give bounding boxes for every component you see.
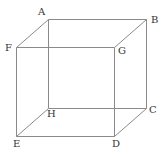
vertex-label-b: B: [151, 14, 158, 25]
vertex-label-a: A: [37, 6, 46, 17]
vertex-label-f: F: [5, 42, 12, 53]
edge-af: [17, 20, 49, 48]
vertex-label-g: G: [118, 45, 126, 56]
vertex-label-d: D: [112, 138, 120, 149]
vertex-label-h: H: [47, 108, 56, 119]
edge-cd: [115, 109, 147, 137]
vertex-label-c: C: [149, 104, 157, 115]
edge-he: [17, 109, 49, 137]
cube-edges: [17, 20, 147, 137]
edge-bg: [115, 20, 147, 48]
vertex-labels: A B F G H C E D: [5, 6, 158, 149]
vertex-label-e: E: [13, 138, 20, 149]
cube-diagram: A B F G H C E D: [0, 0, 165, 154]
